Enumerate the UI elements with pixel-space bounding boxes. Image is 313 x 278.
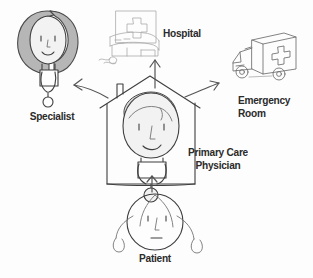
specialist-icon [18,11,78,107]
emergency-room-label: Emergency Room [238,94,303,119]
diagram-artwork: .ink { fill: none; stroke: #3f3f3f; stro… [0,0,313,278]
arrow-physician-to-hospital [150,60,160,88]
patient-label: Patient [115,252,194,265]
hospital-icon [110,11,159,56]
specialist-label: Specialist [15,110,89,123]
hospital-label: Hospital [163,27,225,40]
ambulance-icon [233,33,296,80]
diagram-canvas: .ink { fill: none; stroke: #3f3f3f; stro… [0,0,313,278]
arrow-physician-to-specialist [74,79,108,98]
primary-care-physician-label: Primary Care Physician [178,146,259,171]
patient-icon [113,194,202,253]
arrow-physician-to-emergency-room [185,81,219,97]
